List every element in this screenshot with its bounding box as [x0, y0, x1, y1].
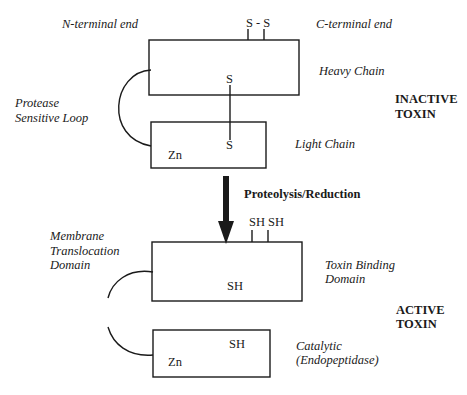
inactive-heavy-chain-box [149, 40, 299, 95]
protease-sensitive-loop [119, 70, 151, 146]
catalytic-label-line1: Catalytic [296, 339, 342, 353]
binding-label-line1: Toxin Binding [325, 258, 395, 272]
active-light-chain-box [153, 330, 270, 377]
sulfhydryl-label: SH SH [249, 215, 284, 229]
active-light-sh-label: SH [229, 337, 245, 351]
active-heavy-sh-label: SH [227, 279, 243, 293]
translocation-label-line2: Translocation [50, 244, 119, 258]
translocation-label-line1: Membrane [50, 229, 104, 243]
proteolysis-reduction-label: Proteolysis/Reduction [244, 187, 360, 201]
inactive-state-label-line1: INACTIVE [395, 92, 458, 106]
heavy-chain-label: Heavy Chain [319, 64, 385, 78]
diagram-shapes [0, 0, 467, 395]
loop-label-line1: Protease [15, 96, 59, 110]
c-terminal-label: C-terminal end [316, 17, 392, 31]
active-state-label-line2: TOXIN [396, 317, 437, 331]
translocation-label-line3: Domain [50, 258, 90, 272]
light-chain-zn-label: Zn [168, 148, 182, 162]
cleaved-loop-upper [108, 271, 153, 298]
light-chain-s-label: S [226, 138, 233, 152]
down-arrow-icon [218, 176, 234, 244]
cleaved-loop-lower [108, 327, 153, 355]
active-state-label-line1: ACTIVE [396, 303, 445, 317]
loop-label-line2: Sensitive Loop [15, 111, 88, 125]
catalytic-label-line2: (Endopeptidase) [296, 353, 379, 367]
active-light-zn-label: Zn [168, 355, 182, 369]
toxin-activation-diagram: N-terminal end S - S C-terminal end Heav… [0, 0, 467, 395]
n-terminal-label: N-terminal end [62, 17, 138, 31]
light-chain-label: Light Chain [295, 137, 355, 151]
disulfide-label: S - S [246, 16, 270, 30]
heavy-chain-s-label: S [226, 72, 233, 86]
binding-label-line2: Domain [325, 272, 365, 286]
inactive-state-label-line2: TOXIN [395, 107, 436, 121]
